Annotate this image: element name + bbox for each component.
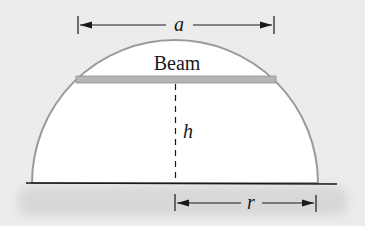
radius-label: r [247,191,255,213]
width-label: a [174,13,184,35]
beam-label: Beam [154,52,201,74]
semicircular-arch-diagram: a Beam h r [0,0,365,226]
arrow-right-icon [260,22,272,29]
ground-shadow [18,186,348,216]
beam [76,76,276,83]
height-label: h [183,120,193,142]
arrow-left-icon [80,22,92,29]
